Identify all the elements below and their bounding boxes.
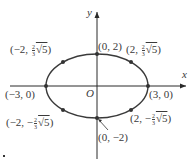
x-axis-label: x — [182, 69, 187, 80]
fraction: 23 — [142, 44, 145, 57]
fraction: 23 — [152, 113, 155, 126]
ellipse-diagram — [0, 0, 192, 159]
corner-mark — [3, 155, 5, 157]
label-bottom: (0, −2) — [98, 132, 128, 143]
label-top-right: (2, 23√5) — [126, 44, 161, 57]
label-text: (2, — [126, 43, 141, 55]
label-text: (−2, — [10, 43, 31, 55]
point-top-right — [129, 60, 133, 64]
label-top-left: (−2, 23√5) — [10, 44, 51, 57]
label-left: (−3, 0) — [5, 89, 35, 100]
point-left — [44, 84, 48, 88]
y-axis-arrow-icon — [95, 12, 100, 18]
point-top — [95, 52, 99, 56]
label-bottom-right: (2, −23√5) — [130, 113, 171, 126]
label-text: (2, − — [130, 112, 151, 124]
label-bottom-left: (−2, −23√5) — [6, 117, 53, 130]
label-text: (−2, − — [6, 116, 33, 128]
y-axis-label: y — [87, 7, 92, 18]
point-top-left — [61, 60, 65, 64]
x-axis-arrow-icon — [180, 84, 186, 89]
label-right: (3, 0) — [149, 89, 173, 100]
label-top: (0, 2) — [98, 41, 122, 52]
fraction: 23 — [34, 117, 37, 130]
origin-label: O — [86, 88, 94, 99]
fraction: 23 — [32, 44, 35, 57]
pointer-arrow-icon — [98, 119, 102, 123]
point-bottom-left — [61, 108, 65, 112]
